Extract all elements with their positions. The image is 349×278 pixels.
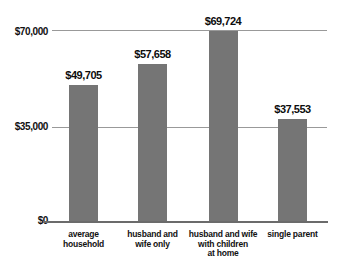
y-axis-tick-label-70000: $70,000 — [6, 26, 48, 37]
bar-chart: $70,000 $35,000 $0 $49,705 average house… — [0, 0, 349, 278]
bar-husband-and-wife-with-children — [209, 31, 238, 221]
value-label-average-household: $49,705 — [49, 69, 119, 81]
bar-single-parent — [278, 119, 307, 221]
bar-husband-and-wife-only — [138, 64, 167, 221]
gridline-70000 — [52, 30, 327, 31]
value-label-husband-and-wife-only: $57,658 — [118, 48, 188, 60]
value-label-husband-and-wife-with-children: $69,724 — [188, 15, 258, 27]
y-axis-tick-label-0: $0 — [6, 215, 48, 226]
bar-average-household — [69, 85, 98, 221]
y-axis-tick-label-35000: $35,000 — [6, 121, 48, 132]
x-axis-baseline — [43, 221, 328, 223]
value-label-single-parent: $37,553 — [258, 103, 328, 115]
category-label-single-parent: single parent — [248, 230, 338, 240]
